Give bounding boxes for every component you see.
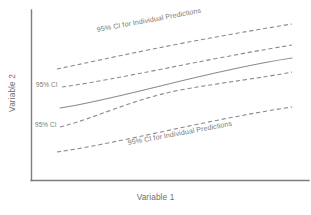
confidence-interval-upper-line [62, 45, 292, 87]
plot-area [0, 0, 311, 215]
prediction-interval-lower-line [57, 107, 292, 152]
fitted-regression-line [60, 58, 292, 108]
prediction-interval-upper-line [57, 24, 292, 69]
regression-confidence-interval-chart: 95% CI for Individual Predictions 95% CI… [0, 0, 311, 215]
confidence-interval-lower-line [60, 72, 292, 127]
